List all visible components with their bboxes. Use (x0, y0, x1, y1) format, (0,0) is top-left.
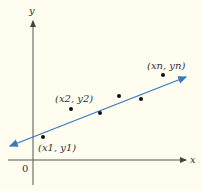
data-point-n (161, 73, 165, 77)
diagram-svg: y x 0 (x1, y1) (x2, y2) (xn, yn) (0, 0, 202, 191)
point-label-n: (xn, yn) (147, 60, 185, 71)
scatter-diagram: y x 0 (x1, y1) (x2, y2) (xn, yn) (0, 0, 202, 191)
x-axis-label: x (190, 154, 196, 165)
regression-line (10, 77, 186, 146)
data-point-2 (69, 107, 73, 111)
data-point-5 (139, 97, 143, 101)
origin-label: 0 (22, 163, 28, 174)
point-label-2: (x2, y2) (55, 93, 93, 104)
data-point-1 (41, 135, 45, 139)
data-point-4 (117, 94, 121, 98)
y-axis-label: y (28, 5, 35, 16)
point-label-1: (x1, y1) (38, 142, 76, 153)
data-point-3 (98, 111, 102, 115)
